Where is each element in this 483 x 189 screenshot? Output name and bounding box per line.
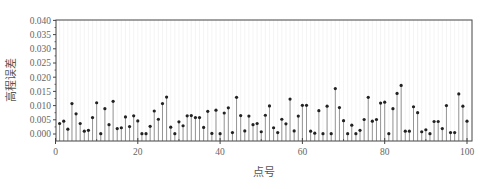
stem-marker xyxy=(330,132,333,135)
stem-point xyxy=(79,122,82,141)
x-tick-label: 60 xyxy=(298,147,308,157)
stem-point xyxy=(202,126,205,141)
stem-marker xyxy=(219,132,222,135)
y-tick-label: 0.005 xyxy=(30,115,52,125)
stem-point xyxy=(449,131,452,141)
stem-marker xyxy=(194,116,197,119)
stem-marker xyxy=(346,132,349,135)
stem-marker xyxy=(293,129,296,132)
x-tick-label: 80 xyxy=(380,147,390,157)
stem-marker xyxy=(79,122,82,125)
stem-point xyxy=(165,95,168,141)
stem-point xyxy=(103,107,106,141)
stem-point xyxy=(395,92,398,141)
stem-marker xyxy=(408,130,411,133)
stem-marker xyxy=(256,122,259,125)
stem-marker xyxy=(321,132,324,135)
stem-point xyxy=(437,120,440,141)
stem-marker xyxy=(280,118,283,121)
stem-point xyxy=(383,101,386,141)
stem-marker xyxy=(297,115,300,118)
y-tick-label: 0.030 xyxy=(30,44,52,54)
stem-marker xyxy=(350,124,353,127)
stem-point xyxy=(120,126,123,141)
stem-point xyxy=(227,106,230,141)
stem-point xyxy=(276,131,279,141)
stem-point xyxy=(297,115,300,141)
stem-point xyxy=(371,120,374,141)
stem-point xyxy=(256,122,259,141)
stem-point xyxy=(214,109,217,141)
stem-marker xyxy=(91,116,94,119)
stem-point xyxy=(74,112,77,141)
stem-marker xyxy=(62,120,65,123)
stem-marker xyxy=(144,132,147,135)
stem-marker xyxy=(301,104,304,107)
stem-point xyxy=(400,84,403,141)
y-tick-label: 0.000 xyxy=(30,129,52,139)
stem-point xyxy=(305,104,308,141)
stem-point xyxy=(432,120,435,141)
stem-marker xyxy=(387,132,390,135)
y-tick-label: 0.040 xyxy=(30,16,52,26)
stem-marker xyxy=(202,126,205,129)
stem-marker xyxy=(437,120,440,123)
stem-marker xyxy=(95,101,98,104)
stem-marker xyxy=(363,118,366,121)
stem-marker xyxy=(354,132,357,135)
data-stems xyxy=(58,84,469,141)
stem-marker xyxy=(235,96,238,99)
y-tick-label: 0.035 xyxy=(30,30,52,40)
stem-point xyxy=(375,118,378,141)
stem-marker xyxy=(268,104,271,107)
stem-marker xyxy=(379,101,382,104)
stem-marker xyxy=(453,131,456,134)
stem-marker xyxy=(457,92,460,95)
stem-marker xyxy=(432,120,435,123)
stem-marker xyxy=(107,123,110,126)
stem-point xyxy=(272,126,275,141)
stem-point xyxy=(206,110,209,141)
stem-marker xyxy=(198,116,201,119)
stem-point xyxy=(181,124,184,141)
stem-point xyxy=(247,115,250,141)
stem-point xyxy=(280,118,283,141)
stem-point xyxy=(58,122,61,141)
stem-point xyxy=(404,130,407,141)
stem-point xyxy=(338,106,341,141)
stem-marker xyxy=(317,109,320,112)
stem-marker xyxy=(416,111,419,114)
stem-marker xyxy=(404,130,407,133)
stem-marker xyxy=(103,107,106,110)
stem-marker xyxy=(177,120,180,123)
stem-point xyxy=(453,131,456,141)
stem-point xyxy=(363,118,366,141)
stem-point xyxy=(367,96,370,141)
stem-marker xyxy=(128,125,131,128)
vertical-gridlines xyxy=(60,20,467,141)
y-tick-label: 0.015 xyxy=(30,87,52,97)
stem-marker xyxy=(288,97,291,100)
stem-marker xyxy=(247,115,250,118)
stem-point xyxy=(284,122,287,141)
stem-point xyxy=(387,132,390,141)
stem-marker xyxy=(70,102,73,105)
stem-point xyxy=(264,114,267,141)
stem-marker xyxy=(186,114,189,117)
stem-marker xyxy=(391,107,394,110)
stem-marker xyxy=(338,106,341,109)
stem-marker xyxy=(74,112,77,115)
y-tick-label: 0.025 xyxy=(30,58,52,68)
stem-marker xyxy=(231,131,234,134)
stem-point xyxy=(461,105,464,141)
stem-marker xyxy=(428,132,431,135)
stem-marker xyxy=(449,131,452,134)
stem-point xyxy=(235,96,238,141)
stem-point xyxy=(149,125,152,141)
stem-marker xyxy=(116,127,119,130)
x-axis-title: 点号 xyxy=(253,166,275,179)
stem-marker xyxy=(99,132,102,135)
stem-marker xyxy=(227,106,230,109)
stem-point xyxy=(445,104,448,141)
stem-point xyxy=(136,119,139,141)
